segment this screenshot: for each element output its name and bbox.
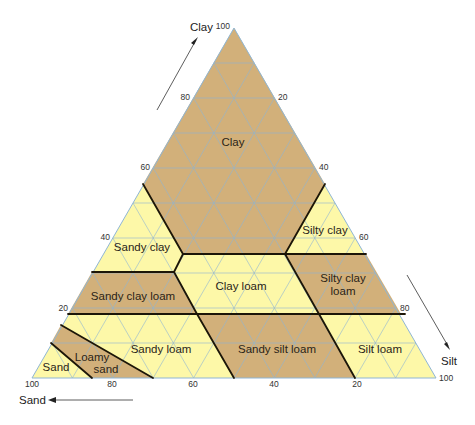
silt-tick-80: 80 bbox=[400, 303, 410, 313]
silt-tick-60: 60 bbox=[359, 232, 369, 242]
clay-axis-title: Clay bbox=[190, 21, 213, 33]
clay-tick-60: 60 bbox=[141, 162, 151, 172]
label-silty-clay-loam-line2: loam bbox=[331, 285, 356, 297]
sand-tick-40: 40 bbox=[269, 379, 279, 389]
clay-tick-80: 80 bbox=[181, 92, 191, 102]
silt-tick-100: 100 bbox=[439, 373, 453, 383]
label-loamy-sand-line1: Loamy bbox=[75, 351, 110, 363]
clay-arrow-icon bbox=[157, 37, 198, 110]
sand-axis-title: Sand bbox=[19, 394, 46, 406]
label-sandy-silt-loam: Sandy silt loam bbox=[238, 343, 316, 355]
label-sandy-loam: Sandy loam bbox=[131, 343, 192, 355]
sand-tick-80: 80 bbox=[107, 379, 117, 389]
clay-tick-40: 40 bbox=[101, 232, 111, 242]
clay-tick-100: 100 bbox=[216, 21, 230, 31]
sand-tick-100: 100 bbox=[25, 379, 39, 389]
label-loamy-sand-line2: sand bbox=[94, 363, 119, 375]
sand-tick-60: 60 bbox=[188, 379, 198, 389]
label-silty-clay: Silty clay bbox=[302, 224, 348, 236]
label-clay: Clay bbox=[221, 136, 244, 148]
silt-tick-40: 40 bbox=[319, 162, 329, 172]
clay-tick-20: 20 bbox=[59, 303, 69, 313]
label-sand: Sand bbox=[43, 361, 70, 373]
silt-axis-title: Silt bbox=[441, 355, 458, 367]
sand-tick-20: 20 bbox=[352, 379, 362, 389]
soil-texture-triangle: Clay Sandy clay Silty clay Sandy clay lo… bbox=[0, 0, 475, 425]
silt-tick-20: 20 bbox=[278, 92, 288, 102]
label-silt-loam: Silt loam bbox=[358, 343, 402, 355]
label-sandy-clay: Sandy clay bbox=[114, 241, 171, 253]
sand-axis-ticks: 100 80 60 40 20 bbox=[25, 379, 362, 389]
sand-arrow-icon bbox=[48, 397, 133, 403]
label-clay-loam: Clay loam bbox=[215, 280, 266, 292]
label-sandy-clay-loam: Sandy clay loam bbox=[91, 290, 175, 302]
label-silty-clay-loam-line1: Silty clay bbox=[320, 272, 366, 284]
